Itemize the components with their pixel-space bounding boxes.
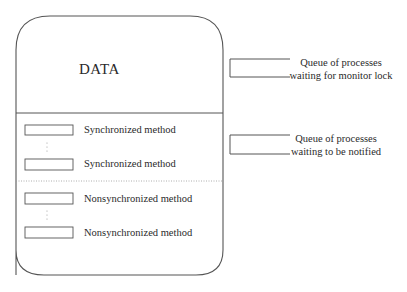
method-box-2 (25, 159, 73, 170)
queue-label-line-2: waiting to be notified (271, 145, 401, 158)
method-label-1: Synchronized method (84, 124, 176, 136)
method-box-3 (25, 193, 73, 204)
ellipsis-dots-nonsync (46, 210, 47, 219)
method-label-2: Synchronized method (84, 158, 176, 170)
method-label-3: Nonsynchronized method (84, 193, 192, 205)
queue-label-line-1: Queue of processes (271, 132, 401, 145)
queue-label-monitor-lock: Queue of processes waiting for monitor l… (276, 56, 406, 82)
queue-label-line-1: Queue of processes (276, 56, 406, 69)
data-label: DATA (79, 61, 120, 78)
method-label-4: Nonsynchronized method (84, 227, 192, 239)
ellipsis-dots-sync (46, 142, 47, 151)
method-box-1 (25, 125, 73, 135)
method-box-4 (25, 227, 73, 238)
queue-label-notified: Queue of processes waiting to be notifie… (271, 132, 401, 158)
queue-label-line-2: waiting for monitor lock (276, 69, 406, 82)
